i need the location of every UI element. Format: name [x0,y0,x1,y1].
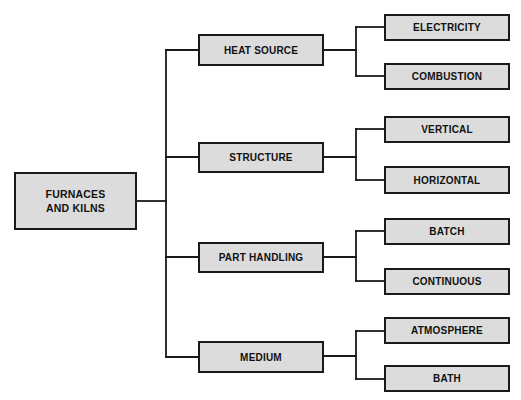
root-label-line2: AND KILNS [46,201,106,215]
leaf-node-atmosphere: ATMOSPHERE [384,317,510,344]
leaf-label: VERTICAL [421,123,473,136]
category-label: HEAT SOURCE [224,44,298,57]
leaf-node-electricity: ELECTRICITY [384,14,510,41]
leaf-label: ATMOSPHERE [411,324,483,337]
category-node-part-handling: PART HANDLING [198,242,324,273]
category-node-structure: STRUCTURE [198,142,324,173]
category-label: MEDIUM [240,351,282,364]
leaf-label: CONTINUOUS [412,275,481,288]
leaf-label: HORIZONTAL [414,174,481,187]
leaf-label: BATCH [429,225,464,238]
category-label: PART HANDLING [219,251,304,264]
leaf-node-bath: BATH [384,365,510,392]
leaf-node-combustion: COMBUSTION [384,63,510,90]
leaf-label: BATH [433,372,461,385]
leaf-node-horizontal: HORIZONTAL [384,166,510,194]
root-label-line1: FURNACES [46,187,106,201]
leaf-node-batch: BATCH [384,218,510,245]
category-label: STRUCTURE [229,151,292,164]
leaf-node-continuous: CONTINUOUS [384,268,510,295]
category-node-medium: MEDIUM [198,341,324,373]
furnace-classification-diagram: FURNACES AND KILNS HEAT SOURCE STRUCTURE… [0,0,521,400]
leaf-label: COMBUSTION [412,70,482,83]
category-node-heat-source: HEAT SOURCE [198,34,324,66]
root-node-furnaces-and-kilns: FURNACES AND KILNS [14,172,137,230]
leaf-label: ELECTRICITY [413,21,481,34]
leaf-node-vertical: VERTICAL [384,116,510,143]
